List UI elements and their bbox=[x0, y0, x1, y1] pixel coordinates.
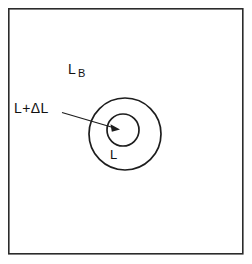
outer-region-label-base: L bbox=[68, 61, 76, 77]
figure-border bbox=[9, 9, 243, 254]
diagram-canvas: L B L+ΔL L bbox=[0, 0, 252, 264]
leader-label: L+ΔL bbox=[14, 100, 49, 116]
inner-region-label: L bbox=[110, 147, 118, 162]
figure-root: L B L+ΔL L bbox=[0, 0, 252, 264]
outer-region-label-subscript: B bbox=[78, 67, 86, 79]
